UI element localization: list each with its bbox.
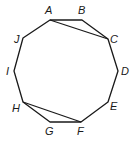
vertex-label-f: F: [77, 125, 85, 137]
vertex-label-a: A: [44, 4, 52, 16]
vertex-label-d: D: [121, 65, 129, 77]
decagon-diagram: A B C D E F G H I J: [0, 0, 134, 143]
vertex-label-g: G: [45, 125, 54, 137]
decagon-outline: [14, 20, 118, 122]
diagonal-ac: [50, 20, 108, 39]
vertex-label-j: J: [13, 33, 20, 45]
vertex-label-c: C: [110, 33, 118, 45]
vertex-label-e: E: [110, 100, 118, 112]
diagonal-hf: [23, 102, 81, 122]
vertex-label-h: H: [12, 102, 20, 114]
vertex-label-b: B: [78, 4, 85, 16]
vertex-label-i: I: [6, 65, 9, 77]
